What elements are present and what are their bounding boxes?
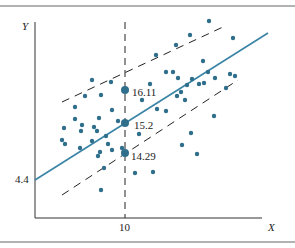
data-point xyxy=(202,81,206,85)
data-point xyxy=(185,83,189,87)
data-point xyxy=(83,94,87,98)
data-point xyxy=(231,36,235,40)
data-point xyxy=(188,33,192,37)
data-point xyxy=(99,188,103,192)
mean-value-label: 15.2 xyxy=(134,119,153,131)
data-point xyxy=(95,129,99,133)
data-point xyxy=(60,138,64,142)
lower-bound-point xyxy=(121,149,129,157)
data-point xyxy=(104,134,108,138)
lower-value-label: 14.29 xyxy=(131,150,156,162)
data-point xyxy=(110,148,114,152)
upper-bound-point xyxy=(121,86,129,94)
data-points xyxy=(60,19,237,192)
x-tick-10: 10 xyxy=(119,221,131,233)
data-point xyxy=(164,109,168,113)
data-point xyxy=(176,76,180,80)
data-point xyxy=(109,80,113,84)
data-point xyxy=(154,53,158,57)
data-point xyxy=(197,82,201,86)
data-point xyxy=(151,170,155,174)
data-point xyxy=(98,150,102,154)
x-axis-label: X xyxy=(267,221,276,233)
data-point xyxy=(207,19,211,23)
data-point xyxy=(175,94,179,98)
data-point xyxy=(110,108,114,112)
y-axis-label: Y xyxy=(22,20,30,32)
data-point xyxy=(206,70,210,74)
data-point xyxy=(73,105,77,109)
data-point xyxy=(155,107,159,111)
data-point xyxy=(96,154,100,158)
data-point xyxy=(212,114,216,118)
data-point xyxy=(137,132,141,136)
data-point xyxy=(90,139,94,143)
data-point xyxy=(183,98,187,102)
data-point xyxy=(174,43,178,47)
data-point xyxy=(78,146,82,150)
data-point xyxy=(179,90,183,94)
data-point xyxy=(171,70,175,74)
data-point xyxy=(116,119,120,123)
data-point xyxy=(228,72,232,76)
data-point xyxy=(213,76,217,80)
data-point xyxy=(233,74,237,78)
data-point xyxy=(195,152,199,156)
data-point xyxy=(106,142,110,146)
data-point xyxy=(90,78,94,82)
data-point xyxy=(62,126,66,130)
data-point xyxy=(133,171,137,175)
data-point xyxy=(79,129,83,133)
data-point xyxy=(80,123,84,127)
data-point xyxy=(97,116,101,120)
data-point xyxy=(189,131,193,135)
data-point xyxy=(99,93,103,97)
upper-value-label: 16.11 xyxy=(132,86,156,98)
y-intercept-label: 4.4 xyxy=(15,173,29,185)
data-point xyxy=(73,117,77,121)
data-point xyxy=(102,166,106,170)
data-point xyxy=(180,143,184,147)
data-point xyxy=(190,77,194,81)
data-point xyxy=(201,59,205,63)
data-point xyxy=(224,86,228,90)
scatter-regression-chart: Y X 10 4.4 16.11 15.2 14.29 xyxy=(0,0,295,248)
mean-point xyxy=(121,119,129,127)
data-point xyxy=(92,125,96,129)
data-point xyxy=(164,70,168,74)
data-point xyxy=(140,98,144,102)
data-point xyxy=(63,142,67,146)
